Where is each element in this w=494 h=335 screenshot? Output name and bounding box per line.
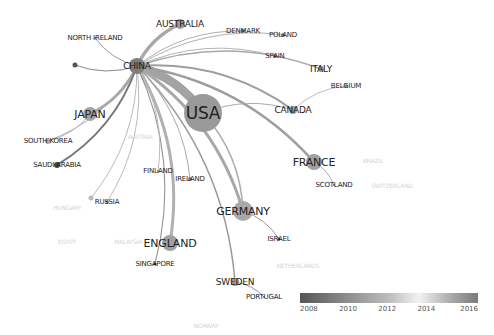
node-label-finland: FINLAND: [143, 167, 172, 175]
node-label-belgium: BELGIUM: [331, 82, 361, 90]
legend-tick: 2016: [460, 305, 478, 313]
node-label-usa: USA: [186, 103, 221, 123]
node-label-france: FRANCE: [293, 156, 336, 169]
legend-ticks: 2008 2010 2012 2014 2016: [300, 303, 478, 315]
node-label-egypt: EGYPT: [58, 238, 76, 245]
node-label-malaysia: MALAYSIA: [114, 238, 142, 245]
node-label-south-korea: SOUTH KOREA: [24, 137, 72, 145]
node-label-poland: POLAND: [269, 31, 297, 39]
node-label-norway: NORWAY: [194, 322, 219, 329]
legend-tick: 2012: [378, 305, 396, 313]
node-label-japan: JAPAN: [74, 108, 105, 121]
legend-tick: 2014: [417, 305, 435, 313]
node-label-scotland: SCOTLAND: [316, 181, 353, 189]
node-label-hungary: HUNGARY: [53, 204, 81, 211]
node-label-portugal: PORTUGAL: [246, 293, 282, 301]
node-label-singapore: SINGAPORE: [135, 260, 174, 268]
year-color-legend: 2008 2010 2012 2014 2016: [300, 293, 478, 315]
edge-china-south-korea: [48, 66, 137, 141]
node-label-china: CHINA: [123, 61, 151, 71]
node-label-saudi-arabia: SAUDI ARABIA: [33, 161, 81, 169]
node-label-netherlands: NETHERLANDS: [277, 262, 320, 269]
node-label-australia: AUSTRALIA: [156, 19, 204, 29]
node-label-germany: GERMANY: [216, 205, 270, 218]
node-label-russia: RUSSIA: [95, 198, 120, 206]
legend-gradient-bar: [300, 293, 478, 303]
legend-tick: 2008: [300, 305, 318, 313]
edge-china-spain: [137, 48, 275, 66]
edge-china-germany: [137, 66, 243, 211]
node-label-denmark: DENMARK: [226, 27, 260, 35]
node-label-sweden: SWEDEN: [216, 277, 254, 287]
node-label-spain: SPAIN: [265, 52, 284, 60]
node-label-switzerland: SWITZERLAND: [371, 182, 413, 189]
node-label-italy: ITALY: [310, 64, 332, 74]
edge-china-england: [137, 66, 174, 243]
node-label-israel: ISRAEL: [268, 235, 291, 243]
node-russia-dot[interactable]: [89, 196, 94, 201]
node-label-austria: AUSTRIA: [128, 133, 153, 140]
node-label-north-ireland: NORTH IRELAND: [67, 34, 122, 42]
node-label-canada: CANADA: [274, 105, 311, 115]
legend-tick: 2010: [339, 305, 357, 313]
node-label-england: ENGLAND: [144, 237, 197, 250]
node-label-brazil: BRAZIL: [363, 157, 383, 164]
node-label-ireland: IRELAND: [175, 175, 204, 183]
node-unlabeled[interactable]: [73, 63, 78, 68]
